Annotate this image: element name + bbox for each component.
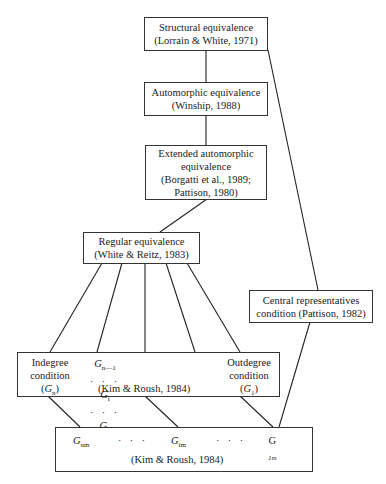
node-citation: (Kim & Roush, 1984) — [98, 382, 190, 395]
node-label: Structural equivalence — [159, 21, 253, 34]
automorphic-equivalence-node: Automorphic equivalence (Winship, 1988) — [144, 82, 268, 116]
g-symbol: G — [94, 358, 102, 369]
node-citation: (White & Reitz, 1983) — [94, 248, 188, 261]
node-citation: (Winship, 1988) — [172, 99, 240, 112]
label: condition — [218, 369, 280, 382]
extended-automorphic-equivalence-node: Extended automorphic equivalence (Borgat… — [145, 145, 267, 200]
node-citation: Pattison, 1980) — [174, 186, 238, 199]
subscript: 1m — [268, 454, 277, 462]
node-label: equivalence — [181, 160, 231, 173]
subscript: i — [108, 395, 110, 403]
node-citation: (Borgatti et al., 1989; — [161, 173, 251, 186]
central-representatives-node: Central representatives condition (Patti… — [249, 290, 373, 323]
g-symbol: G — [44, 383, 52, 394]
symbol: (Gn) — [22, 382, 78, 400]
label: Outdegree — [218, 356, 280, 369]
outdegree-condition: Outdegree condition (G1) — [218, 356, 280, 400]
structural-equivalence-node: Structural equivalence (Lorrain & White,… — [144, 17, 268, 51]
g-im: Gim — [171, 434, 186, 452]
g-series-row: Gn—1 · · · Gi · · · G2 — [84, 357, 126, 437]
g-symbol: G — [243, 383, 251, 394]
g-symbol: G — [171, 435, 179, 446]
subscript: n — [52, 389, 56, 397]
regular-equivalence-node: Regular equivalence (White & Reitz, 1983… — [83, 232, 200, 264]
label: Indegree — [22, 356, 78, 369]
g-nm: Gnm — [73, 434, 90, 452]
label: condition — [22, 369, 78, 382]
node-label: Automorphic equivalence — [152, 86, 261, 99]
kim-roush-conditions-node: Indegree condition (Gn) Gn—1 · · · Gi · … — [17, 352, 280, 397]
subscript: 1 — [251, 389, 255, 397]
g-symbol: G — [268, 434, 277, 447]
ellipsis: · · · — [216, 434, 246, 447]
kim-roush-bottom-node: Gnm · · · Gim · · · G1m (Kim & Roush, 19… — [55, 427, 313, 472]
node-label: Central representatives — [263, 294, 360, 307]
indegree-condition: Indegree condition (Gn) — [22, 356, 78, 400]
subscript: nm — [81, 441, 90, 449]
ellipsis: · · · — [118, 434, 148, 447]
subscript: im — [179, 441, 186, 449]
subscript: n—1 — [102, 364, 116, 372]
node-label: Regular equivalence — [99, 235, 185, 248]
node-label: condition (Pattison, 1982) — [256, 307, 365, 320]
ellipsis: · · · — [90, 406, 120, 419]
g-symbol: G — [73, 435, 81, 446]
node-label: Extended automorphic — [158, 147, 253, 160]
symbol: (G1) — [218, 382, 280, 400]
g-1m: G1m — [268, 434, 277, 465]
node-citation: (Lorrain & White, 1971) — [154, 34, 258, 47]
node-citation: (Kim & Roush, 1984) — [131, 453, 223, 466]
